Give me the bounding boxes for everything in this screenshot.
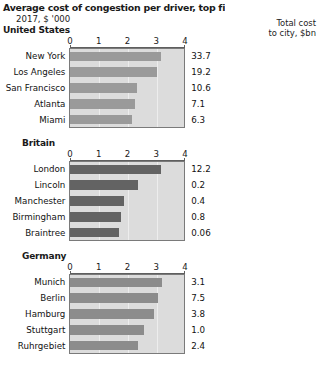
- row-label: London: [0, 161, 69, 177]
- bar-track: [69, 80, 185, 96]
- axis-tick-label: 2: [125, 149, 130, 160]
- bar: [70, 165, 161, 174]
- bar: [70, 309, 153, 319]
- axis-tick-label: 3: [154, 149, 159, 160]
- bar: [70, 212, 120, 222]
- bar-track: [69, 209, 185, 225]
- bar-track: [69, 96, 185, 112]
- bar: [70, 228, 119, 237]
- gridline: [128, 209, 129, 225]
- bar-track: [69, 274, 185, 290]
- row-label: Birmingham: [0, 209, 69, 225]
- plot-area-united-states: New York33.7Los Angeles19.2San Francisco…: [0, 48, 225, 128]
- gridline: [128, 225, 129, 240]
- panels-host: United States01234New York33.7Los Angele…: [0, 24, 225, 354]
- row-label: Munich: [0, 274, 69, 290]
- x-axis-united-states: 01234: [70, 36, 185, 48]
- panel-united-states: United States01234New York33.7Los Angele…: [0, 24, 225, 128]
- row-label: Manchester: [0, 193, 69, 209]
- bar-track: [69, 225, 185, 241]
- panel-title-germany: Germany: [0, 250, 225, 262]
- axis-tick-label: 3: [154, 262, 159, 273]
- row-label: Miami: [0, 112, 69, 128]
- page-title: Average cost of congestion per driver, t…: [0, 0, 225, 13]
- chart-container: Average cost of congestion per driver, t…: [0, 0, 225, 354]
- bar-track: [69, 112, 185, 128]
- row-total-cost-value: 10.6: [185, 80, 225, 96]
- panel-britain: Britain01234London12.2Lincoln0.2Manchest…: [0, 137, 225, 241]
- bar: [70, 293, 158, 303]
- chart-row: Berlin7.5: [0, 290, 225, 306]
- row-label: Atlanta: [0, 96, 69, 112]
- chart-row: New York33.7: [0, 48, 225, 64]
- gridline: [157, 64, 158, 80]
- axis-tick-label: 1: [96, 149, 101, 160]
- chart-row: Birmingham0.8: [0, 209, 225, 225]
- bar: [70, 52, 161, 61]
- panel-germany: Germany01234Munich3.1Berlin7.5Hamburg3.8…: [0, 250, 225, 354]
- chart-row: Lincoln0.2: [0, 177, 225, 193]
- bar: [70, 180, 138, 190]
- row-total-cost-value: 0.8: [185, 209, 225, 225]
- bar: [70, 99, 135, 109]
- row-total-cost-value: 0.4: [185, 193, 225, 209]
- row-total-cost-value: 33.7: [185, 48, 225, 64]
- row-total-cost-value: 1.0: [185, 322, 225, 338]
- bar: [70, 196, 123, 206]
- gridline: [157, 96, 158, 112]
- row-label: Hamburg: [0, 306, 69, 322]
- row-label: Stuttgart: [0, 322, 69, 338]
- bar: [70, 115, 132, 124]
- row-label: Lincoln: [0, 177, 69, 193]
- gridline: [157, 177, 158, 193]
- row-total-cost-value: 7.5: [185, 290, 225, 306]
- row-total-cost-value: 6.3: [185, 112, 225, 128]
- chart-header: Average cost of congestion per driver, t…: [0, 0, 225, 24]
- row-total-cost-value: 3.1: [185, 274, 225, 290]
- bar-track: [69, 290, 185, 306]
- row-total-cost-value: 3.8: [185, 306, 225, 322]
- chart-row: Hamburg3.8: [0, 306, 225, 322]
- axis-tick-label: 2: [125, 36, 130, 47]
- chart-row: Ruhrgebiet2.4: [0, 338, 225, 354]
- panel-separator: [0, 128, 225, 137]
- chart-row: Manchester0.4: [0, 193, 225, 209]
- bar: [70, 325, 143, 335]
- plot-area-germany: Munich3.1Berlin7.5Hamburg3.8Stuttgart1.0…: [0, 274, 225, 354]
- row-label: Los Angeles: [0, 64, 69, 80]
- gridline: [157, 225, 158, 240]
- chart-row: Miami6.3: [0, 112, 225, 128]
- gridline: [157, 112, 158, 127]
- bar-track: [69, 193, 185, 209]
- panel-title-united-states: United States: [0, 24, 225, 36]
- gridline: [157, 338, 158, 353]
- row-total-cost-value: 12.2: [185, 161, 225, 177]
- gridline: [157, 209, 158, 225]
- panel-separator: [0, 241, 225, 250]
- axis-tick-label: 1: [96, 36, 101, 47]
- row-label: New York: [0, 48, 69, 64]
- gridline: [157, 322, 158, 338]
- bar-track: [69, 322, 185, 338]
- bar-track: [69, 338, 185, 354]
- chart-row: Atlanta7.1: [0, 96, 225, 112]
- x-axis-germany: 01234: [70, 262, 185, 274]
- bar: [70, 278, 162, 287]
- gridline: [157, 80, 158, 96]
- bar-track: [69, 161, 185, 177]
- chart-row: Munich3.1: [0, 274, 225, 290]
- row-total-cost-value: 7.1: [185, 96, 225, 112]
- chart-row: London12.2: [0, 161, 225, 177]
- row-label: Berlin: [0, 290, 69, 306]
- plot-area-britain: London12.2Lincoln0.2Manchester0.4Birming…: [0, 161, 225, 241]
- bar-track: [69, 64, 185, 80]
- row-label: Braintree: [0, 225, 69, 241]
- chart-subtitle: 2017, $ '000: [0, 13, 225, 24]
- bar: [70, 83, 136, 93]
- bar: [70, 341, 138, 350]
- row-label: Ruhrgebiet: [0, 338, 69, 354]
- row-total-cost-value: 0.06: [185, 225, 225, 241]
- bar-track: [69, 306, 185, 322]
- axis-tick-label: 2: [125, 262, 130, 273]
- bar-track: [69, 177, 185, 193]
